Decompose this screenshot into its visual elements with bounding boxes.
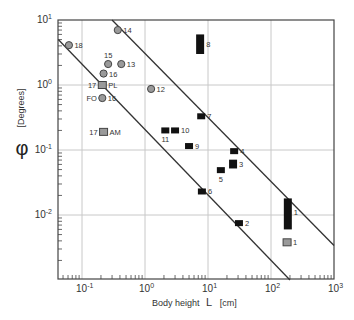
point-label: 11 bbox=[161, 135, 169, 144]
point-label: 13 bbox=[127, 60, 135, 69]
x-tick-label: 102 bbox=[265, 282, 280, 294]
point-label: 1 bbox=[294, 208, 298, 217]
point-label: FO bbox=[86, 94, 97, 103]
y-tick-label: 100 bbox=[37, 78, 52, 90]
y-tick-label: 10-1 bbox=[35, 143, 52, 155]
rect-marker bbox=[198, 188, 206, 194]
circle-marker bbox=[114, 26, 121, 33]
point-label: 2 bbox=[245, 219, 249, 228]
point-label: 8 bbox=[206, 40, 210, 49]
point-label: 15 bbox=[104, 51, 112, 60]
x-tick-label: 103 bbox=[328, 282, 343, 294]
x-tick-label: 10-1 bbox=[76, 282, 93, 294]
y-axis-unit: [Degrees] bbox=[16, 88, 26, 127]
rect-marker bbox=[196, 34, 204, 54]
point-label: 18 bbox=[74, 41, 82, 50]
point-label: PL bbox=[108, 81, 117, 90]
rect-marker bbox=[229, 160, 237, 169]
y-tick-label: 101 bbox=[37, 13, 52, 25]
point-label: 17 bbox=[89, 128, 97, 137]
point-label: 16 bbox=[108, 94, 116, 103]
rect-marker bbox=[185, 143, 193, 149]
square-marker bbox=[98, 82, 106, 89]
point-label: 5 bbox=[219, 175, 223, 184]
axis-ticks: 10-110010110210310110010-110-2 bbox=[35, 13, 343, 294]
circle-marker bbox=[105, 60, 112, 67]
rect-marker bbox=[230, 148, 238, 154]
circle-marker bbox=[100, 70, 107, 77]
square-marker bbox=[100, 128, 108, 135]
rect-marker bbox=[284, 198, 292, 229]
square-marker bbox=[283, 239, 291, 246]
point-label: 6 bbox=[208, 187, 212, 196]
circle-marker bbox=[148, 85, 155, 92]
x-axis-title: Body height L [cm] bbox=[152, 296, 237, 308]
point-label: 14 bbox=[123, 26, 131, 35]
circle-marker bbox=[99, 94, 106, 101]
chart: 10-110010110210310110010-110-2 141815131… bbox=[0, 0, 354, 320]
point-label: 16 bbox=[109, 70, 117, 79]
y-axis-symbol: φ bbox=[16, 137, 29, 159]
rect-marker bbox=[217, 167, 225, 173]
point-label: 10 bbox=[181, 126, 189, 135]
rect-marker bbox=[161, 127, 169, 133]
rect-marker bbox=[197, 113, 205, 119]
point-label: 17 bbox=[88, 81, 96, 90]
rect-marker bbox=[235, 220, 243, 226]
data-points: 1418151316FO161217PL17AM11110978643521 bbox=[65, 26, 298, 247]
limit-line bbox=[58, 40, 290, 280]
point-label: 9 bbox=[195, 142, 199, 151]
x-tick-label: 100 bbox=[139, 282, 154, 294]
point-label: 12 bbox=[157, 85, 165, 94]
point-label: 3 bbox=[239, 160, 243, 169]
circle-marker bbox=[65, 42, 72, 49]
point-label: 1 bbox=[293, 238, 297, 247]
y-tick-label: 10-2 bbox=[35, 208, 52, 220]
point-label: 7 bbox=[207, 112, 211, 121]
point-label: 4 bbox=[240, 147, 244, 156]
circle-marker bbox=[118, 60, 125, 67]
rect-marker bbox=[171, 127, 179, 133]
point-label: AM bbox=[110, 128, 121, 137]
x-tick-label: 101 bbox=[202, 282, 217, 294]
